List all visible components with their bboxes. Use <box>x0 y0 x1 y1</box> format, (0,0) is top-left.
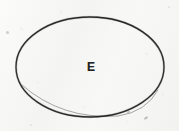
scan-speck-icon <box>6 31 9 34</box>
scan-speck-icon <box>168 6 170 8</box>
ellipse-top-arc-emphasis <box>96 17 158 48</box>
diagram-canvas: E <box>0 0 179 131</box>
ellipse-bottom-arc-emphasis <box>22 85 158 116</box>
scan-speck-icon <box>30 124 32 126</box>
ellipse-diagram-svg <box>0 0 179 131</box>
